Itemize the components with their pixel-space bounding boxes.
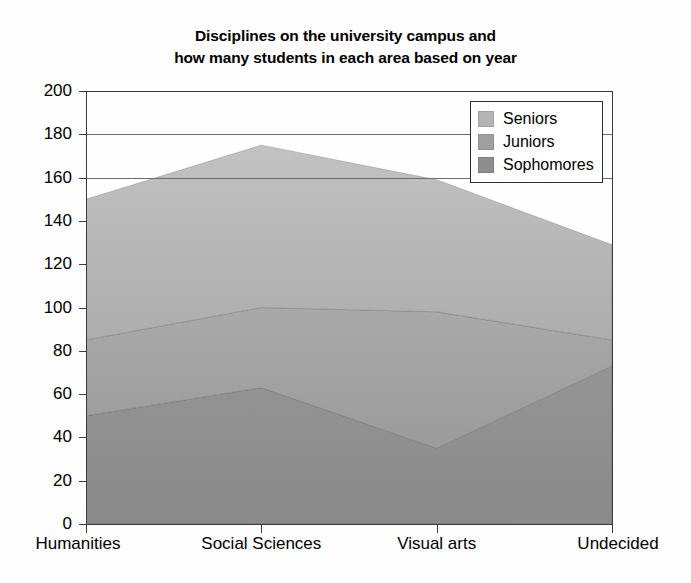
x-axis-tick-mark [437,524,438,533]
x-axis-tick-label: Visual arts [397,534,476,553]
x-axis-tick-mark [261,524,262,533]
legend-swatch-icon [478,157,494,173]
y-axis-tick-label: 20 [16,472,72,489]
chart-title-line-1: Disciplines on the university campus and [0,25,691,47]
x-axis-tick-label: Humanities [35,534,120,553]
legend-swatch-icon [478,111,494,127]
y-axis-tick-mark [79,178,86,179]
y-axis-tick-mark [79,524,86,525]
y-axis-tick-label: 60 [16,385,72,402]
plot-border-top [86,91,612,92]
y-axis-tick-mark [79,481,86,482]
y-axis-tick-label: 160 [16,169,72,186]
x-axis-tick-label: Undecided [577,534,658,553]
plot-border-bottom [86,524,612,525]
y-axis-tick-mark [79,134,86,135]
x-axis-tick-mark [612,524,613,533]
y-axis-tick-mark [79,91,86,92]
legend-item-sophomores[interactable]: Sophomores [478,153,595,176]
chart-title-line-2: how many students in each area based on … [0,47,691,69]
y-axis-tick-mark [79,308,86,309]
area-chart: Disciplines on the university campus and… [0,0,691,583]
y-axis-tick-label: 100 [16,299,72,316]
y-axis-tick-mark [79,394,86,395]
y-axis-tick-mark [79,264,86,265]
y-axis-tick-mark [79,437,86,438]
y-axis-tick-label: 180 [16,125,72,142]
legend-label: Seniors [503,111,557,127]
legend-swatch-icon [478,134,494,150]
x-axis-tick-mark [86,524,87,533]
y-axis-tick-mark [79,351,86,352]
plot-border-left [86,91,87,524]
y-axis-tick-label: 120 [16,255,72,272]
chart-title: Disciplines on the university campus and… [0,25,691,69]
y-axis-tick-label: 40 [16,428,72,445]
legend-item-seniors[interactable]: Seniors [478,107,595,130]
y-axis-tick-mark [79,221,86,222]
y-axis-tick-label: 80 [16,342,72,359]
y-axis-tick-label: 0 [16,515,72,532]
chart-legend: SeniorsJuniorsSophomores [470,101,603,183]
legend-label: Sophomores [503,157,594,173]
legend-label: Juniors [503,134,555,150]
legend-item-juniors[interactable]: Juniors [478,130,595,153]
y-axis-tick-label: 140 [16,212,72,229]
plot-border-right [612,91,613,524]
y-axis-tick-label: 200 [16,82,72,99]
x-axis-tick-label: Social Sciences [201,534,321,553]
y-axis-labels: 020406080100120140160180200 [10,0,72,583]
